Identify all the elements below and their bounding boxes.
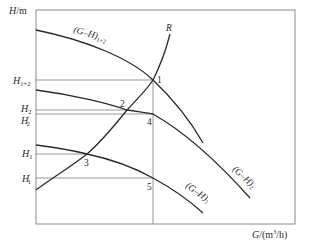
label-gh-2: (G–H)2 [230, 164, 258, 191]
pump-diagram: H/m G/(m3/h) H1+2 H2 H′2 H1 H′1 (G–H)1+2… [0, 0, 309, 244]
curve-r [36, 34, 170, 190]
point-3: 3 [84, 158, 89, 168]
plot-frame [36, 10, 295, 224]
curve-gh-1 [36, 145, 203, 213]
point-2: 2 [120, 99, 125, 109]
h-label-2-prime: H′2 [20, 114, 30, 127]
label-gh-1plus2: (G–H)1+2 [72, 24, 108, 45]
label-gh-1: (G–H)1 [183, 180, 212, 205]
point-5: 5 [147, 182, 152, 192]
h-label-1: H1 [21, 148, 32, 160]
label-r: R [165, 23, 172, 33]
h-label-1-prime: H′1 [21, 172, 31, 185]
h-label-2: H2 [20, 103, 31, 115]
curve-gh-2 [36, 90, 250, 198]
curve-gh-1plus2 [36, 30, 203, 143]
y-axis-label: H/m [8, 5, 27, 16]
point-4: 4 [147, 117, 152, 127]
h-label-1plus2: H1+2 [12, 75, 30, 87]
point-1: 1 [157, 75, 162, 85]
x-axis-label: G/(m3/h) [252, 229, 287, 241]
